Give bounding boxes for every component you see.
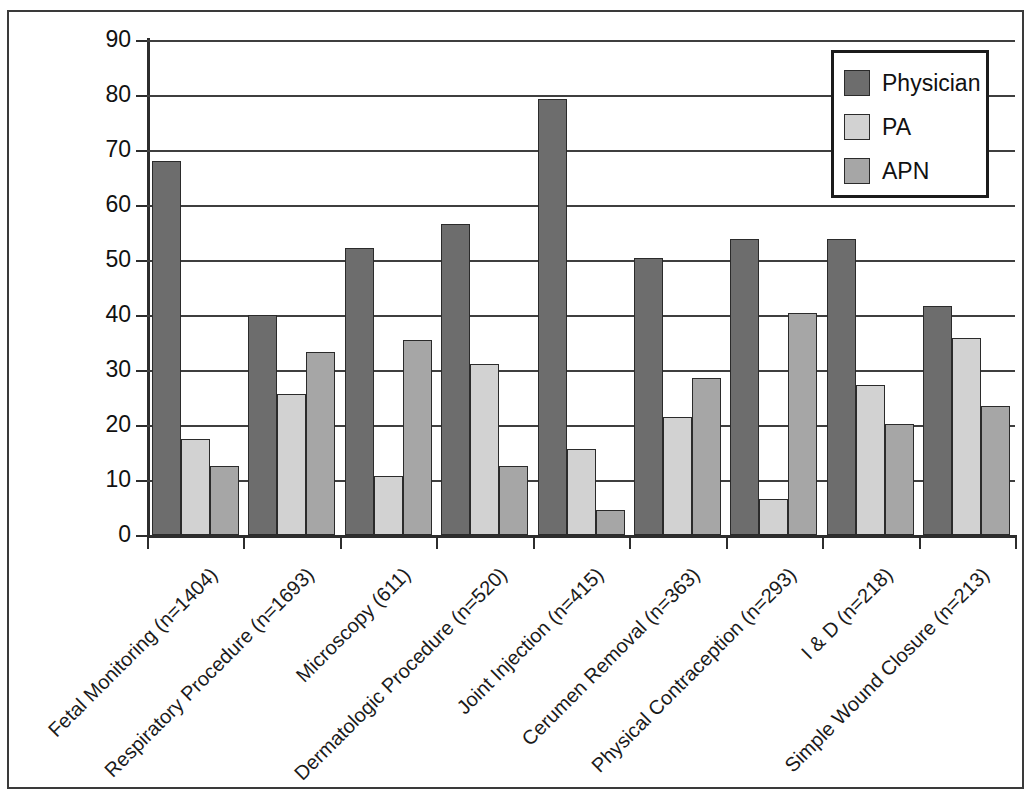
bar <box>730 239 759 535</box>
bar <box>306 352 335 535</box>
x-axis-label: Physical Contraception (n=293) <box>588 564 800 776</box>
legend-label-apn: APN <box>882 160 929 183</box>
y-tick-label: 20 <box>87 413 131 436</box>
bar <box>441 224 470 535</box>
x-tick-mark <box>919 535 921 549</box>
x-axis-label: Fetal Monitoring (n=1404) <box>44 564 220 740</box>
bar <box>277 394 306 535</box>
x-tick-mark <box>436 535 438 549</box>
x-axis-label: Cerumen Removal (n=363) <box>518 564 703 749</box>
legend-label-pa: PA <box>882 116 911 139</box>
y-tick-label: 90 <box>87 28 131 51</box>
bar <box>210 466 239 535</box>
y-tick-label: 40 <box>87 303 131 326</box>
bar <box>470 364 499 535</box>
bar <box>403 340 432 535</box>
y-tick-label: 50 <box>87 248 131 271</box>
y-tick-label: 0 <box>87 523 131 546</box>
bar <box>923 306 952 535</box>
legend-label-physician: Physician <box>882 72 980 95</box>
y-tick-label: 10 <box>87 468 131 491</box>
bar <box>634 258 663 535</box>
legend-swatch-physician <box>844 70 870 96</box>
x-axis-label: Simple Wound Closure (n=213) <box>781 564 993 776</box>
x-tick-mark <box>629 535 631 549</box>
legend-item-pa: PA <box>844 105 986 149</box>
bar <box>827 239 856 535</box>
bar-group <box>152 40 239 535</box>
x-tick-mark <box>1015 535 1017 549</box>
legend-swatch-apn <box>844 158 870 184</box>
x-tick-mark <box>726 535 728 549</box>
legend-item-apn: APN <box>844 149 986 193</box>
legend-item-physician: Physician <box>844 61 986 105</box>
bar-group <box>441 40 528 535</box>
bar <box>538 99 567 535</box>
x-axis-line <box>147 535 1015 538</box>
x-tick-mark <box>822 535 824 549</box>
x-tick-mark <box>533 535 535 549</box>
bar <box>181 439 210 535</box>
legend-swatch-pa <box>844 114 870 140</box>
x-tick-mark <box>147 535 149 549</box>
y-tick-label: 60 <box>87 193 131 216</box>
bar <box>952 338 981 535</box>
bar-group <box>345 40 432 535</box>
y-tick-label: 70 <box>87 138 131 161</box>
bar <box>788 313 817 535</box>
bar <box>759 499 788 535</box>
bar <box>248 315 277 535</box>
bar <box>981 406 1010 535</box>
y-tick-label: 30 <box>87 358 131 381</box>
bar-group <box>634 40 721 535</box>
x-tick-mark <box>340 535 342 549</box>
bar-group <box>730 40 817 535</box>
x-axis-label: Dermatologic Procedure (n=520) <box>291 564 511 784</box>
x-axis-label: I & D (n=218) <box>797 564 896 663</box>
bar <box>567 449 596 535</box>
bar <box>499 466 528 535</box>
bar <box>856 385 885 535</box>
bar-group <box>248 40 335 535</box>
x-tick-mark <box>243 535 245 549</box>
chart-frame: 0102030405060708090 Fetal Monitoring (n=… <box>7 10 1024 789</box>
bar <box>692 378 721 535</box>
bar <box>152 161 181 535</box>
bar <box>885 424 914 535</box>
bar <box>345 248 374 535</box>
bar-group <box>538 40 625 535</box>
legend: Physician PA APN <box>831 50 989 198</box>
bar <box>596 510 625 535</box>
x-axis-label: Respiratory Procedure (n=1693) <box>101 564 318 781</box>
y-tick-label: 80 <box>87 83 131 106</box>
bar <box>663 417 692 535</box>
bar <box>374 476 403 535</box>
